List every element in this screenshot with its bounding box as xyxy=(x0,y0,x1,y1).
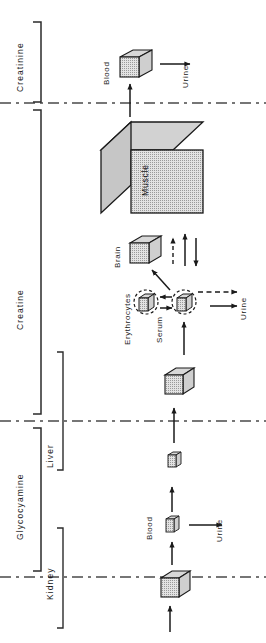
arrow-serum-to-brain xyxy=(152,270,170,290)
cube-blood-creatinine xyxy=(120,50,152,77)
section-label-creatinine: Creatinine xyxy=(16,42,25,92)
organ-label-liver: Liver xyxy=(46,444,55,468)
cube-brain xyxy=(130,236,161,263)
cube-kidney xyxy=(161,571,190,597)
section-label-glycocyamine: Glycocyamine xyxy=(16,473,25,540)
compartment-label-serum: Serum xyxy=(156,316,164,343)
sink-label-urine-glycocyamine: Urine xyxy=(216,519,224,542)
bracket-creatinine xyxy=(33,22,41,102)
sink-label-urine-creatine: Urine xyxy=(240,297,248,320)
cube-liver-lower xyxy=(168,452,181,467)
compartment-label-muscle: Muscle xyxy=(140,164,150,196)
cube-muscle xyxy=(101,122,203,213)
compartment-label-erythrocytes: Erythrocytes xyxy=(124,293,132,345)
bracket-glycocyamine xyxy=(33,428,41,571)
cube-erythrocytes xyxy=(134,290,158,314)
bracket-kidney xyxy=(57,528,63,628)
cube-liver-upper xyxy=(165,368,194,394)
compartment-label-blood-glycocyamine: Blood xyxy=(146,517,154,540)
compartment-label-brain: Brain xyxy=(114,246,122,268)
bracket-liver xyxy=(57,352,63,470)
bracket-creatine xyxy=(33,110,41,414)
cube-serum xyxy=(172,290,196,314)
organ-label-kidney: Kidney xyxy=(46,567,55,600)
metabolic-flow-diagram xyxy=(0,0,266,643)
sink-label-urine-creatinine: Urine xyxy=(182,65,190,88)
figure-canvas: Creatinine Creatine Glycocyamine Kidney … xyxy=(0,0,266,643)
cube-blood-glycocyamine xyxy=(166,516,179,532)
section-label-creatine: Creatine xyxy=(16,289,25,330)
compartment-label-blood-creatinine: Blood xyxy=(103,62,111,85)
